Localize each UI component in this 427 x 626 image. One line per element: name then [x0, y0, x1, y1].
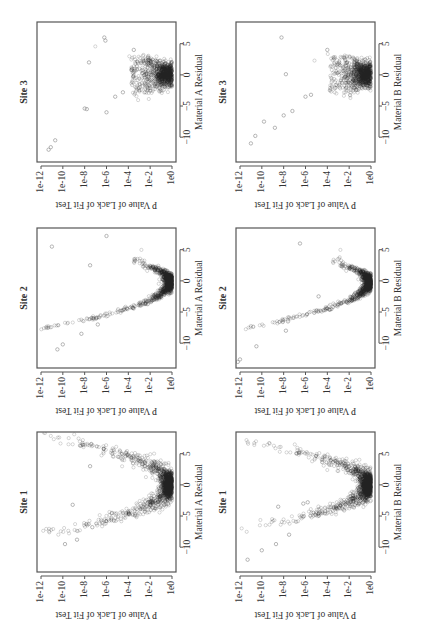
y-tick-label: 1e-10 [256, 171, 266, 193]
outlier-point [326, 48, 329, 51]
outlier-point [249, 142, 252, 145]
y-tick-label: 1e-2 [144, 581, 154, 598]
y-tick-label: 1e-4 [123, 171, 133, 188]
y-tick-label: 1e-8 [278, 377, 288, 394]
data-points [249, 36, 372, 145]
x-tick-label: 5 [381, 451, 391, 456]
y-tick-label: 1e-4 [123, 581, 133, 598]
y-tick-label: 1e-4 [322, 581, 332, 598]
x-tick-label: 0 [182, 482, 192, 487]
y-tick-label: 1e-8 [79, 171, 89, 188]
x-axis-label: Material A Residual [194, 54, 204, 130]
outlier-point [255, 345, 258, 348]
outlier-point [56, 348, 59, 351]
x-tick-label: 5 [182, 247, 192, 252]
y-tick-label: 1e-8 [278, 581, 288, 598]
outlier-point [91, 526, 94, 529]
x-tick-label: −5 [182, 307, 192, 317]
x-tick-label: 0 [182, 72, 192, 77]
outlier-point [287, 533, 290, 536]
y-tick-label: 1e-6 [300, 377, 310, 394]
outlier-point [277, 505, 280, 508]
outlier-point [280, 36, 283, 39]
y-tick-label: 1e-2 [144, 171, 154, 188]
y-tick-label: 1e-12 [35, 581, 45, 603]
x-axis-label: Material B Residual [393, 463, 403, 540]
scatter-panel: 1e-121e-101e-81e-61e-41e-21e0P Value of … [217, 432, 403, 620]
outlier-point [246, 558, 249, 561]
y-tick-label: 1e-10 [57, 171, 67, 193]
x-tick-label: −10 [381, 130, 391, 145]
panel-title: Site 1 [217, 490, 228, 514]
outlier-point [302, 502, 305, 505]
y-tick-label: 1e-10 [57, 377, 67, 399]
y-axis-label: P Value of Lack of Fit Test [55, 610, 157, 620]
data-points [42, 431, 174, 546]
outlier-point [274, 542, 277, 545]
y-tick-label: 1e-12 [234, 377, 244, 399]
outlier-point [238, 358, 241, 361]
outlier-point [49, 146, 52, 149]
y-tick-label: 1e0 [365, 581, 375, 595]
x-tick-label: −10 [182, 130, 192, 145]
x-tick-label: −5 [182, 101, 192, 111]
y-tick-label: 1e-10 [256, 581, 266, 603]
outlier-point [309, 93, 312, 96]
outlier-point [83, 107, 86, 110]
outlier-point [273, 126, 276, 129]
x-tick-label: 0 [381, 482, 391, 487]
outlier-point [87, 61, 90, 64]
y-tick-label: 1e-12 [35, 377, 45, 399]
x-axis-label: Material A Residual [194, 464, 204, 540]
data-points [236, 242, 373, 364]
x-tick-label: −10 [381, 336, 391, 351]
y-tick-label: 1e-10 [57, 581, 67, 603]
outlier-point [304, 95, 307, 98]
outlier-point [63, 542, 66, 545]
outlier-point [105, 111, 108, 114]
x-tick-label: 0 [182, 278, 192, 283]
outlier-point [254, 134, 257, 137]
y-axis-label: P Value of Lack of Fit Test [254, 406, 356, 416]
y-tick-label: 1e-6 [300, 171, 310, 188]
y-axis-label: P Value of Lack of Fit Test [254, 610, 356, 620]
outlier-point [298, 242, 301, 245]
outlier-point [284, 73, 287, 76]
panel-title: Site 2 [18, 286, 29, 310]
outlier-point [80, 332, 83, 335]
outlier-point [317, 295, 320, 298]
y-tick-label: 1e-12 [234, 581, 244, 603]
outlier-point [61, 343, 64, 346]
y-axis-label: P Value of Lack of Fit Test [55, 200, 157, 210]
x-axis-label: Material A Residual [194, 260, 204, 336]
x-tick-label: −10 [182, 540, 192, 555]
outlier-point [75, 538, 78, 541]
outlier-point [282, 114, 285, 117]
scatter-panel: 1e-121e-101e-81e-61e-41e-21e0P Value of … [18, 431, 204, 620]
panel-title: Site 2 [217, 286, 228, 310]
x-tick-label: −10 [381, 540, 391, 555]
outlier-point [96, 323, 99, 326]
outlier-point [54, 139, 57, 142]
x-tick-label: −10 [182, 336, 192, 351]
outlier-point [88, 465, 91, 468]
scatter-panel: 1e-121e-101e-81e-61e-41e-21e0P Value of … [18, 22, 204, 210]
outlier-point [262, 120, 265, 123]
panel-title: Site 3 [217, 80, 228, 104]
data-points [40, 234, 174, 351]
scatter-panel: 1e-121e-101e-81e-61e-41e-21e0P Value of … [18, 228, 204, 416]
x-tick-label: −5 [381, 307, 391, 317]
y-tick-label: 1e-6 [101, 171, 111, 188]
y-tick-label: 1e-8 [79, 377, 89, 394]
outlier-point [71, 503, 74, 506]
x-tick-label: 5 [182, 451, 192, 456]
y-tick-label: 1e-6 [101, 581, 111, 598]
y-tick-label: 1e-12 [234, 171, 244, 193]
y-tick-label: 1e0 [166, 581, 176, 595]
x-axis-label: Material B Residual [393, 53, 403, 130]
y-axis-label: P Value of Lack of Fit Test [55, 406, 157, 416]
y-tick-label: 1e-8 [79, 581, 89, 598]
y-tick-label: 1e-6 [101, 377, 111, 394]
y-tick-label: 1e0 [166, 377, 176, 391]
y-tick-label: 1e-8 [278, 171, 288, 188]
